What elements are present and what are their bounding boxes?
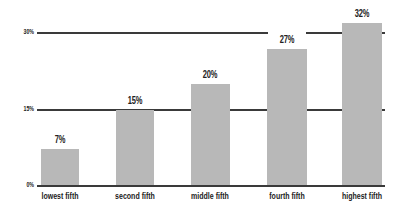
bar-middle-fifth: [191, 84, 230, 185]
x-label-highest-fifth: highest fifth: [335, 191, 390, 201]
value-label-lowest-fifth: 7%: [41, 134, 79, 145]
y-tick-15: 15%: [12, 105, 35, 112]
value-label-middle-fifth: 20%: [191, 69, 229, 80]
value-label-fourth-fifth: 27%: [268, 34, 306, 45]
gridline-30: [37, 32, 385, 34]
value-label-second-fifth: 15%: [116, 95, 154, 106]
bar-second-fifth: [116, 110, 154, 185]
x-label-lowest-fifth: lowest fifth: [33, 191, 88, 201]
x-label-fourth-fifth: fourth fifth: [260, 191, 315, 201]
x-axis-baseline: [37, 185, 385, 187]
x-label-middle-fifth: middle fifth: [183, 191, 238, 201]
bar-highest-fifth: [342, 23, 382, 185]
bar-fourth-fifth: [267, 49, 307, 185]
y-tick-30: 30%: [12, 28, 35, 35]
bar-lowest-fifth: [41, 149, 79, 185]
value-label-highest-fifth: 32%: [343, 8, 381, 19]
y-tick-0: 0%: [12, 181, 35, 188]
x-label-second-fifth: second fifth: [108, 191, 163, 201]
bar-chart: 30% 15% 0% 7% 15% 20% 27% 32% lowest fif…: [0, 0, 405, 216]
